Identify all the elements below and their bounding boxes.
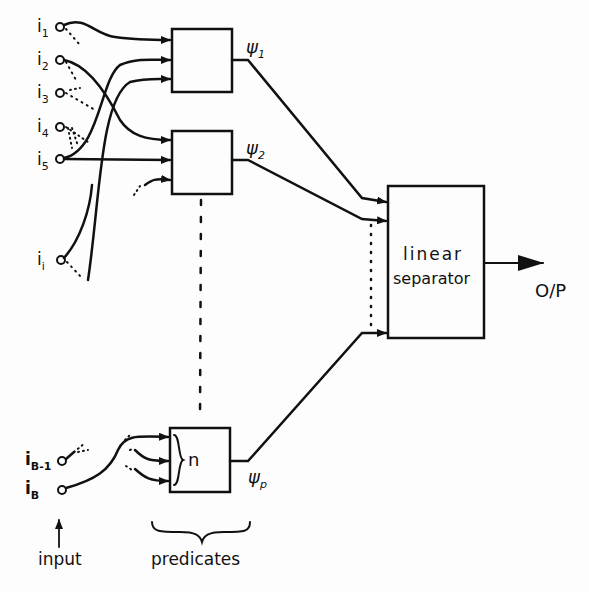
predicate-box-p bbox=[170, 428, 230, 492]
predicate-label-1: ψ1 bbox=[246, 38, 265, 56]
input-label-3: i3 bbox=[37, 84, 49, 101]
input-label-2: i2 bbox=[37, 51, 49, 68]
input-label-b-minus-1: iB-1 bbox=[25, 451, 51, 468]
output-label: O/P bbox=[535, 282, 566, 300]
diagram-graphics bbox=[0, 0, 589, 592]
predicate-label-2: ψ2 bbox=[246, 139, 265, 157]
input-label-b: iB bbox=[25, 480, 39, 497]
input-caption: input bbox=[38, 551, 82, 568]
perceptron-diagram: i1 i2 i3 i4 i5 ii iB-1 iB ψ1 ψ2 ψp n lin… bbox=[0, 0, 589, 592]
input-label-5: i5 bbox=[37, 151, 49, 168]
predicate-label-p: ψp bbox=[248, 468, 267, 486]
input-label-1: i1 bbox=[37, 18, 49, 35]
separator-label-line1: linear bbox=[403, 246, 463, 263]
predicate-box-1 bbox=[172, 29, 232, 92]
predicate-box-2 bbox=[172, 131, 232, 194]
predicates-caption: predicates bbox=[151, 551, 240, 568]
separator-label-line2: separator bbox=[393, 271, 470, 287]
input-label-i: ii bbox=[37, 251, 45, 268]
input-label-4: i4 bbox=[37, 118, 49, 135]
fan-in-label: n bbox=[188, 451, 199, 469]
